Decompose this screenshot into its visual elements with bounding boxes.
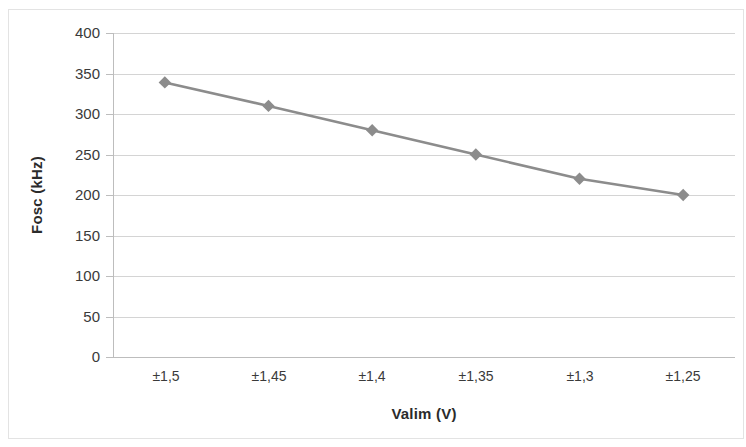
chart-container: Fosc (kHz) 400 350 300 250 200 150 100 5…: [0, 0, 746, 447]
data-point-marker: [366, 124, 378, 136]
data-point-marker: [470, 148, 482, 160]
data-series-layer: [0, 0, 746, 447]
data-point-marker: [573, 173, 585, 185]
data-point-marker: [677, 189, 689, 201]
data-point-marker: [159, 76, 171, 88]
series-line: [165, 82, 683, 195]
data-point-marker: [262, 100, 274, 112]
